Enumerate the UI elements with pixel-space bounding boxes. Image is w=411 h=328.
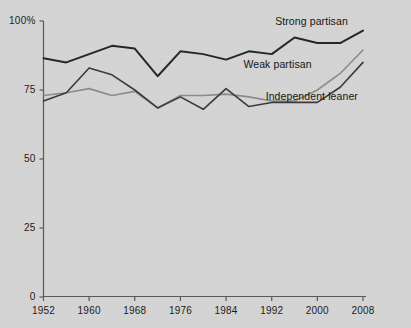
y-axis-tick-label: 50 (0, 153, 36, 164)
x-axis-tick-label: 2008 (338, 305, 388, 316)
x-axis-tick-label: 1952 (19, 305, 69, 316)
series-label-strong-partisan: Strong partisan (275, 15, 348, 27)
series-label-independent-leaner: Independent leaner (266, 90, 358, 102)
x-axis-tick-label: 1984 (201, 305, 251, 316)
y-axis-tick-label: 100% (0, 15, 36, 26)
y-axis-tick-label: 75 (0, 84, 36, 95)
x-axis-tick-label: 1992 (247, 305, 297, 316)
y-axis-tick-label: 25 (0, 222, 36, 233)
series-line-independent-leaner (44, 62, 364, 109)
x-axis-tick-label: 1960 (64, 305, 114, 316)
x-axis-ticks (44, 297, 364, 301)
x-axis-tick-label: 1968 (110, 305, 160, 316)
line-chart: 0255075100% 1952196019681976198419922000… (0, 0, 411, 328)
chart-plot-area (0, 0, 411, 328)
axes (40, 21, 367, 301)
y-axis-tick-label: 0 (0, 291, 36, 302)
series-label-weak-partisan: Weak partisan (243, 58, 311, 70)
x-axis-tick-label: 1976 (155, 305, 205, 316)
x-axis-tick-label: 2000 (292, 305, 342, 316)
